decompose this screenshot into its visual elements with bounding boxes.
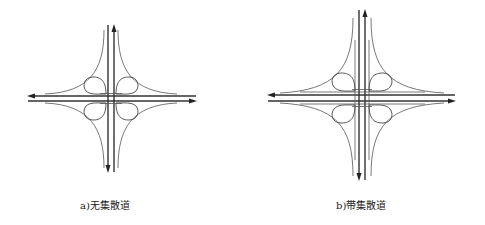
outer-ramp-nw: [280, 18, 353, 93]
caption-panel-a: a)无集散道: [80, 197, 130, 212]
outer-ramp-ne: [371, 18, 444, 93]
outer-ramp-ne: [118, 30, 177, 94]
panel-b-cloverleaf-with-cd: [267, 9, 456, 181]
arrow-west-icon: [267, 93, 275, 98]
arrow-north-icon: [112, 24, 117, 32]
arrow-south-icon: [357, 173, 362, 181]
outer-ramp-se: [371, 103, 444, 176]
arrow-north-icon: [363, 9, 368, 17]
diagram-canvas: [0, 0, 485, 225]
caption-panel-b: b)带集散道: [336, 197, 386, 212]
interchange-figure: a)无集散道 b)带集散道: [0, 0, 485, 225]
outer-ramp-sw: [280, 103, 353, 176]
arrow-west-icon: [27, 94, 35, 99]
loop-ne: [116, 77, 138, 94]
outer-ramp-nw: [45, 30, 104, 94]
outer-ramp-sw: [45, 103, 104, 168]
arrow-south-icon: [106, 165, 111, 173]
arrow-east-icon: [189, 99, 197, 104]
loop-nw: [84, 77, 106, 94]
outer-ramp-se: [118, 103, 177, 168]
panel-a-cloverleaf-without-cd: [27, 24, 197, 173]
arrow-east-icon: [448, 99, 456, 104]
